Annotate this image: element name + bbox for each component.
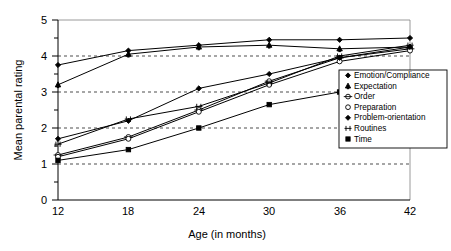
x-tick-label: 12 <box>52 205 64 217</box>
filled-diamond-marker <box>55 62 60 67</box>
y-tick-label: 1 <box>41 158 47 170</box>
filled-club-marker <box>55 82 60 88</box>
x-tick-label: 42 <box>404 205 416 217</box>
filled-diamond-marker <box>55 136 60 141</box>
y-axis-ticks <box>52 20 58 200</box>
filled-club-marker <box>126 51 131 57</box>
filled-square-marker <box>56 158 60 162</box>
filled-club-marker <box>337 46 342 52</box>
legend-item-1[interactable]: Expectation <box>345 82 397 91</box>
filled-square-marker <box>197 126 201 130</box>
series-line <box>58 38 410 65</box>
filled-square-marker <box>267 102 271 106</box>
open-circle-marker <box>126 136 131 141</box>
y-tick-label: 2 <box>41 122 47 134</box>
y-axis-title: Mean parental rating <box>12 60 24 161</box>
open-circle-marker <box>346 105 351 110</box>
filled-square-marker <box>126 147 130 151</box>
line-chart: 5 4 3 2 1 0 12 18 24 30 36 42 Age (in mo… <box>0 0 451 251</box>
x-axis-title: Age (in months) <box>188 228 266 240</box>
x-axis-tick-labels: 12 18 24 30 36 42 <box>52 205 416 217</box>
legend-item-label: Routines <box>354 124 386 133</box>
y-tick-label: 4 <box>41 50 47 62</box>
legend-item-label: Preparation <box>354 103 397 112</box>
legend-item-label: Expectation <box>354 82 397 91</box>
legend[interactable]: Emotion/ComplianceExpectationOrderPrepar… <box>339 70 447 148</box>
filled-diamond-marker <box>267 71 272 76</box>
x-tick-label: 30 <box>263 205 275 217</box>
open-circle-marker <box>196 109 201 114</box>
legend-item-0[interactable]: Emotion/Compliance <box>346 71 430 80</box>
legend-item-3[interactable]: Preparation <box>346 103 397 112</box>
filled-club-marker <box>266 42 271 48</box>
x-tick-label: 36 <box>334 205 346 217</box>
legend-item-label: Problem-orientation <box>354 113 426 122</box>
filled-diamond-marker <box>196 86 201 91</box>
y-tick-label: 5 <box>41 14 47 26</box>
legend-item-label: Time <box>354 135 372 144</box>
y-tick-label: 0 <box>41 194 47 206</box>
legend-item-4[interactable]: Problem-orientation <box>346 113 426 122</box>
filled-square-marker <box>346 137 350 141</box>
legend-item-label: Order <box>354 92 375 101</box>
legend-item-label: Emotion/Compliance <box>354 71 430 80</box>
y-axis-tick-labels: 5 4 3 2 1 0 <box>41 14 47 206</box>
x-tick-label: 18 <box>122 205 134 217</box>
y-tick-label: 3 <box>41 86 47 98</box>
x-tick-label: 24 <box>193 205 205 217</box>
filled-diamond-marker <box>407 35 412 40</box>
chart-page: 5 4 3 2 1 0 12 18 24 30 36 42 Age (in mo… <box>0 0 451 251</box>
filled-diamond-marker <box>337 37 342 42</box>
